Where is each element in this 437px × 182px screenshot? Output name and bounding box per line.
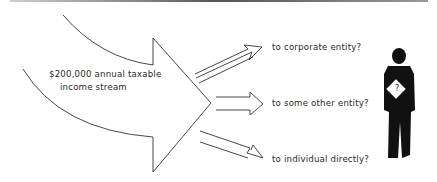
person-silhouette-icon — [384, 48, 415, 158]
arrow-to-corporate — [195, 45, 262, 83]
destination-corporate-label: to corporate entity? — [272, 42, 361, 52]
destination-individual-label: to individual directly? — [272, 154, 369, 164]
arrow-to-other-entity — [216, 92, 263, 115]
source-label-line1: $200,000 annual taxable — [49, 69, 161, 79]
destination-other-entity-label: to some other entity? — [272, 98, 369, 108]
arrow-to-individual — [200, 131, 263, 158]
source-label-line2: income stream — [60, 82, 127, 92]
income-stream-arrow — [23, 15, 211, 172]
sign-question-mark: ? — [395, 84, 399, 93]
